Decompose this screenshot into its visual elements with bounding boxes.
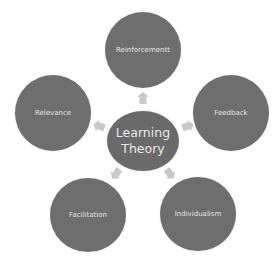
arrow-left-icon	[91, 118, 106, 133]
center-node-learning-theory: Learning Theory	[107, 111, 179, 171]
node-relevance: Relevance	[15, 75, 91, 151]
center-label-line1: Learning	[116, 125, 170, 141]
node-facilitation: Facilitation	[50, 178, 126, 252]
node-relevance-label: Relevance	[35, 110, 71, 117]
arrow-down-right-icon	[162, 166, 179, 183]
node-reinforcement: Reinforcementt	[105, 12, 181, 88]
center-node-label: Learning Theory	[116, 125, 170, 157]
node-reinforcement-label: Reinforcementt	[116, 47, 170, 54]
node-feedback: Feedback	[193, 75, 269, 151]
center-label-line2: Theory	[116, 141, 170, 157]
arrow-down-left-icon	[108, 166, 125, 183]
node-individualism-label: Individualism	[175, 211, 222, 218]
node-facilitation-label: Facilitation	[69, 212, 107, 219]
node-feedback-label: Feedback	[214, 110, 247, 117]
arrow-up-icon	[137, 92, 149, 104]
node-individualism: Individualism	[160, 177, 236, 251]
